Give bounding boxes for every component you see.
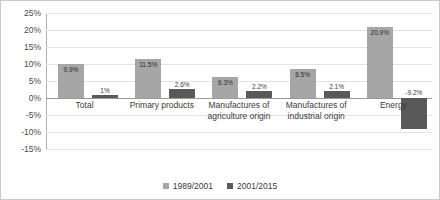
bar-group-bars: 8.5%2.1% bbox=[278, 13, 355, 149]
bar-group: 11.5%2.6%Primary products bbox=[123, 13, 200, 149]
gridline bbox=[46, 149, 432, 150]
category-label-line1: Total bbox=[76, 100, 94, 110]
y-axis-tick-label: 10% bbox=[24, 59, 41, 69]
plot-area: 25%20%15%10%5%0%-5%-10%-15% 9.9%1%Total1… bbox=[46, 13, 432, 149]
category-label-line1: Energy bbox=[380, 100, 407, 110]
y-axis-tick-label: 0% bbox=[29, 93, 41, 103]
bar[interactable] bbox=[367, 27, 393, 98]
legend-label: 2001/2015 bbox=[237, 181, 277, 191]
category-label-line1: Manufactures of bbox=[286, 100, 347, 110]
bar-group: 20.9%-9.2%Energy bbox=[355, 13, 432, 149]
bar-value-label: 11.5% bbox=[139, 61, 157, 68]
bar[interactable] bbox=[169, 89, 195, 98]
category-label-line1: Primary products bbox=[130, 100, 194, 110]
bar[interactable] bbox=[324, 91, 350, 98]
bar-value-label: 8.5% bbox=[295, 71, 310, 78]
bar-group-bars: 11.5%2.6% bbox=[123, 13, 200, 149]
bar-value-label: 2.1% bbox=[329, 83, 344, 90]
category-label: Manufactures ofindustrial origin bbox=[278, 100, 355, 122]
category-label: Manufactures ofagriculture origin bbox=[200, 100, 277, 122]
category-label-line2: agriculture origin bbox=[200, 111, 277, 122]
category-label: Total bbox=[46, 100, 123, 111]
bar[interactable] bbox=[92, 95, 118, 98]
bar-value-label: 1% bbox=[100, 87, 109, 94]
legend-label: 1989/2001 bbox=[173, 181, 213, 191]
chart-legend: 1989/20012001/2015 bbox=[1, 181, 439, 191]
legend-swatch-icon bbox=[163, 183, 169, 189]
y-axis-tick-label: -5% bbox=[26, 110, 41, 120]
y-axis-tick-label: 20% bbox=[24, 25, 41, 35]
bar-value-label: 6.3% bbox=[218, 79, 233, 86]
bar-value-label: 9.9% bbox=[64, 66, 79, 73]
bar-group-bars: 9.9%1% bbox=[46, 13, 123, 149]
y-axis-tick-label: 5% bbox=[29, 76, 41, 86]
category-label: Primary products bbox=[123, 100, 200, 111]
bar-value-label: 2.6% bbox=[175, 81, 190, 88]
bar-group: 9.9%1%Total bbox=[46, 13, 123, 149]
bar-group: 6.3%2.2%Manufactures ofagriculture origi… bbox=[200, 13, 277, 149]
bar[interactable] bbox=[246, 91, 272, 98]
legend-swatch-icon bbox=[227, 183, 233, 189]
y-axis-tick-label: -10% bbox=[21, 127, 41, 137]
bar-value-label: 20.9% bbox=[371, 29, 389, 36]
category-label-line1: Manufactures of bbox=[209, 100, 270, 110]
bar-value-label: 2.2% bbox=[252, 83, 267, 90]
bar-group-bars: 6.3%2.2% bbox=[200, 13, 277, 149]
y-axis-tick-label: 15% bbox=[24, 42, 41, 52]
bar-group: 8.5%2.1%Manufactures ofindustrial origin bbox=[278, 13, 355, 149]
category-label: Energy bbox=[355, 100, 432, 111]
y-axis-tick-label: -15% bbox=[21, 144, 41, 154]
legend-item[interactable]: 1989/2001 bbox=[163, 181, 213, 191]
bar-group-bars: 20.9%-9.2% bbox=[355, 13, 432, 149]
bar-value-label: -9.2% bbox=[405, 89, 422, 96]
legend-item[interactable]: 2001/2015 bbox=[227, 181, 277, 191]
category-label-line2: industrial origin bbox=[278, 111, 355, 122]
chart-figure: 25%20%15%10%5%0%-5%-10%-15% 9.9%1%Total1… bbox=[0, 0, 440, 200]
y-axis-tick-label: 25% bbox=[24, 8, 41, 18]
